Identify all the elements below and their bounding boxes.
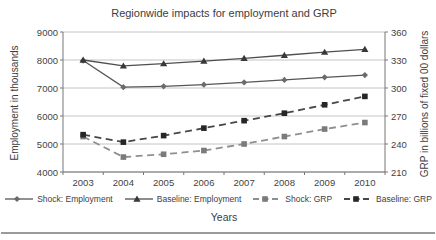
right-tick-label: 210 xyxy=(391,167,407,178)
right-tick-label: 240 xyxy=(391,139,407,150)
legend-item-baseline-grp: Baseline: GRP xyxy=(343,194,432,204)
year-tick-label: 2010 xyxy=(354,177,375,188)
diamond-marker xyxy=(362,72,368,78)
year-tick-label: 2008 xyxy=(274,177,295,188)
square-marker xyxy=(201,148,207,154)
square-marker xyxy=(80,132,86,138)
plot-area: 9000800070006000500040003603303002702402… xyxy=(0,0,436,240)
chart-figure: 9000800070006000500040003603303002702402… xyxy=(0,0,436,240)
left-tick-label: 4000 xyxy=(37,167,58,178)
left-tick-label: 8000 xyxy=(37,55,58,66)
right-tick-label: 300 xyxy=(391,83,407,94)
legend-swatch-shock-grp-icon xyxy=(252,194,282,204)
legend-label-baseline-employment: Baseline: Employment xyxy=(157,194,242,204)
square-marker xyxy=(241,118,247,124)
year-tick-label: 2006 xyxy=(193,177,214,188)
square-marker xyxy=(322,102,328,108)
square-marker xyxy=(201,125,207,131)
diamond-marker xyxy=(14,196,20,202)
left-axis-title: Employment in thousands xyxy=(9,45,20,160)
diamond-marker xyxy=(201,82,207,88)
legend-swatch-baseline-grp-icon xyxy=(343,194,373,204)
square-marker xyxy=(161,151,167,157)
legend-item-shock-employment: Shock: Employment xyxy=(4,194,113,204)
square-marker xyxy=(282,110,288,116)
year-tick-label: 2009 xyxy=(314,177,335,188)
year-tick-label: 2005 xyxy=(153,177,174,188)
left-tick-label: 9000 xyxy=(37,27,58,38)
diamond-marker xyxy=(322,74,328,80)
x-axis-title: Years xyxy=(63,211,385,223)
square-marker xyxy=(161,133,167,139)
series-line-0 xyxy=(83,61,365,88)
diamond-marker xyxy=(161,83,167,89)
diamond-marker xyxy=(281,77,287,83)
chart-title: Regionwide impacts for employment and GR… xyxy=(63,7,385,19)
right-tick-label: 270 xyxy=(391,111,407,122)
square-marker xyxy=(362,94,368,100)
legend-label-shock-grp: Shock: GRP xyxy=(285,194,332,204)
legend-swatch-baseline-employment-icon xyxy=(124,194,154,204)
square-marker xyxy=(282,134,288,140)
legend-label-baseline-grp: Baseline: GRP xyxy=(376,194,432,204)
year-tick-label: 2007 xyxy=(234,177,255,188)
left-tick-label: 7000 xyxy=(37,83,58,94)
legend-item-baseline-employment: Baseline: Employment xyxy=(124,194,242,204)
legend-item-shock-grp: Shock: GRP xyxy=(252,194,332,204)
series-line-1 xyxy=(83,49,365,66)
square-marker xyxy=(322,126,328,132)
right-tick-label: 360 xyxy=(391,27,407,38)
left-tick-label: 6000 xyxy=(37,111,58,122)
year-tick-label: 2004 xyxy=(113,177,134,188)
square-marker xyxy=(121,139,127,145)
square-marker xyxy=(121,154,127,160)
square-marker xyxy=(263,196,269,202)
diamond-marker xyxy=(241,79,247,85)
legend: Shock: Employment Baseline: Employment S… xyxy=(0,194,436,204)
square-marker xyxy=(241,141,247,147)
legend-swatch-shock-employment-icon xyxy=(4,194,34,204)
square-marker xyxy=(362,120,368,126)
right-tick-label: 330 xyxy=(391,55,407,66)
square-marker xyxy=(353,196,359,202)
legend-label-shock-employment: Shock: Employment xyxy=(37,194,113,204)
page-rule xyxy=(1,232,435,234)
year-tick-label: 2003 xyxy=(73,177,94,188)
right-axis-title: GRP in billions of fixed 00 dollars xyxy=(419,31,430,178)
left-tick-label: 5000 xyxy=(37,139,58,150)
